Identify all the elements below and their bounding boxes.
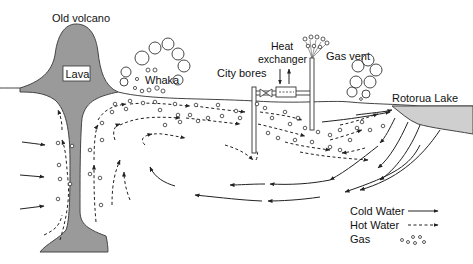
cold-water-flows-left — [20, 142, 45, 209]
gas-bubbles — [56, 99, 385, 207]
legend: Cold Water Hot Water Gas — [350, 205, 438, 245]
old-volcano-label: Old volcano — [52, 12, 110, 24]
lava-label: Lava — [66, 68, 91, 80]
valve-icon — [260, 89, 272, 97]
legend-hot-water-label: Hot Water — [350, 219, 399, 231]
city-bores-label: City bores — [217, 67, 267, 79]
geothermal-diagram: Lava Old volcano Whaka City bores Heat e… — [0, 0, 473, 264]
rotorua-lake-label: Rotorua Lake — [392, 92, 458, 104]
heat-exchanger-icon — [276, 69, 310, 97]
legend-gas-label: Gas — [350, 233, 371, 245]
legend-gas-bubbles-icon — [401, 236, 426, 245]
heat-exchanger-label-2: exchanger — [258, 53, 308, 65]
lava-body — [20, 24, 118, 252]
cold-water-flows-right — [150, 110, 440, 201]
hot-water-flows — [44, 103, 378, 240]
heat-exchanger-label-1: Heat — [271, 40, 293, 52]
legend-cold-water-label: Cold Water — [350, 205, 405, 217]
